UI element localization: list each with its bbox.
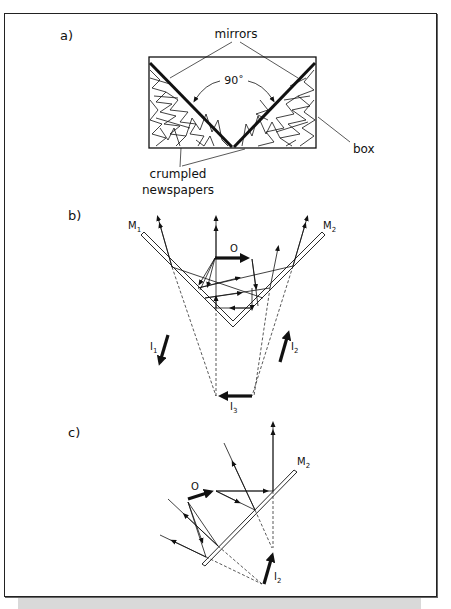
image1-label: I1 [150,341,157,355]
image2-arrow [280,334,288,362]
image1-arrow [160,335,168,362]
virtual-ray-lines-c [206,491,273,584]
image2-arrow-c [264,556,272,584]
box-leader [318,117,350,142]
newspapers-label-line1: crumpled [150,167,207,181]
object-arrow-c [188,492,210,499]
panel-b: b) M1 M2 [68,208,336,415]
mirrors-leader-left [170,42,232,78]
angle-label: 90˚ [224,74,244,87]
mirrors-label: mirrors [215,27,258,41]
angle-arc-right [248,81,273,100]
panel-c: c) M2 [68,424,310,585]
angle-arc-left [195,81,220,100]
crumpled-newspaper-left [150,70,228,146]
image3-label: I3 [230,401,237,415]
panel-a-label: a) [60,28,73,43]
object-label-c: O [191,481,199,492]
panel-b-label: b) [68,208,81,223]
panel-c-label: c) [68,425,80,440]
box-label: box [353,142,375,156]
newspapers-leader-left [180,148,181,167]
mirror1-label: M1 [128,220,141,234]
mirror2-label: M2 [323,220,336,234]
image2-label-c: I2 [274,571,281,585]
panel-a: a) mirrors 90˚ [60,27,375,197]
object-label-b: O [230,243,238,254]
light-rays-c [160,424,273,557]
crumpled-newspaper-right [242,70,315,146]
light-rays [158,218,307,308]
mirror-right [234,63,315,147]
mirror-diagram: a) mirrors 90˚ [0,0,451,609]
image2-label: I2 [291,341,298,355]
mirror2-label-c: M2 [297,456,310,470]
mirror-m2-c [202,470,297,566]
newspapers-leader-right [182,149,245,166]
newspapers-label-line2: newspapers [142,183,214,197]
mirrors-leader-right [240,42,298,78]
